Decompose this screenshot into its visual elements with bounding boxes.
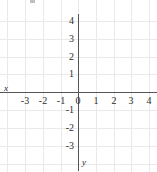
x-tick-label: 3 [123, 96, 139, 106]
y-tick-label: -2 [58, 123, 74, 133]
x-axis-label: x [4, 84, 8, 93]
y-axis-line [78, 14, 79, 171]
y-axis-label: y [82, 158, 86, 167]
y-tick-label: -3 [58, 141, 74, 151]
x-tick-label: 4 [141, 96, 157, 106]
y-tick-label: -1 [58, 105, 74, 115]
y-tick-label: 3 [58, 34, 74, 44]
y-tick-label: 2 [58, 52, 74, 62]
y-tick-label: 1 [58, 69, 74, 79]
x-tick-label: 2 [106, 96, 122, 106]
x-tick-label: -2 [35, 96, 51, 106]
scan-artifact-mark [30, 0, 35, 3]
coordinate-plane-figure: -3-2-1012344321-1-2-3 x y [0, 0, 157, 172]
x-tick-label: -3 [17, 96, 33, 106]
y-tick-label: 4 [58, 16, 74, 26]
x-tick-label: 1 [88, 96, 104, 106]
